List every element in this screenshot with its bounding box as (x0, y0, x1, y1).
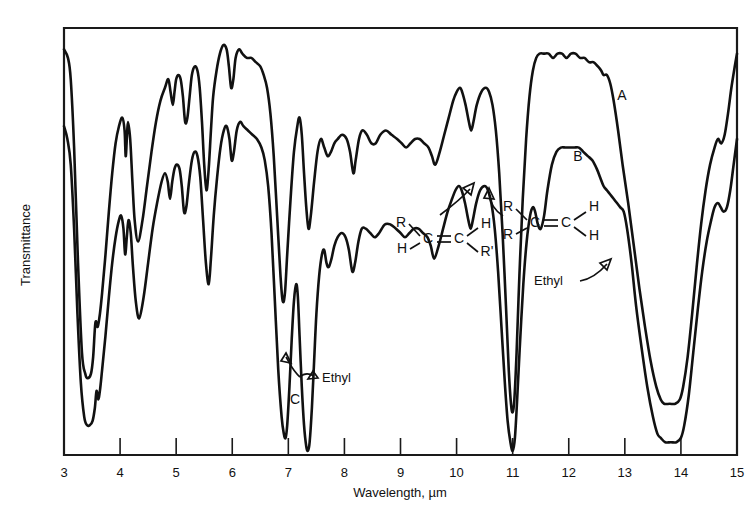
x-tick-label: 7 (285, 465, 292, 480)
struct-left-h2: H (481, 215, 491, 231)
spectrum-svg: 3456789101112131415 Wavelength, µm Trans… (0, 0, 751, 524)
struct-right-r2: R (503, 226, 513, 242)
x-tick-label: 12 (562, 465, 576, 480)
bond-left-r2 (467, 243, 478, 252)
bond-right-h2 (574, 227, 586, 236)
ethyl-lower-label: Ethyl (322, 370, 351, 385)
x-tick-label: 14 (674, 465, 688, 480)
x-tick-label: 3 (60, 465, 67, 480)
struct-right-r1: R (503, 198, 513, 214)
x-tick-label: 8 (341, 465, 348, 480)
ir-spectrum-figure: 3456789101112131415 Wavelength, µm Trans… (0, 0, 751, 524)
x-tick-label: 13 (618, 465, 632, 480)
struct-left-h1: H (397, 240, 407, 256)
curve-label-c: C (290, 391, 300, 407)
x-tick-label: 6 (229, 465, 236, 480)
bond-right-h1 (574, 212, 586, 220)
struct-left-c2: C (454, 230, 464, 246)
x-tick-label: 15 (730, 465, 744, 480)
x-tick-label: 5 (173, 465, 180, 480)
ethyl-upper-label: Ethyl (534, 273, 563, 288)
curve-c-trace (64, 122, 737, 451)
x-tick-label: 9 (397, 465, 404, 480)
struct-left-r1: R (396, 214, 406, 230)
struct-right-h1: H (589, 198, 599, 214)
curve-label-a: A (617, 87, 627, 103)
curve-label-b: B (573, 148, 582, 164)
x-tick-label: 10 (449, 465, 463, 480)
struct-right-c1: C (530, 214, 540, 230)
struct-right-h2: H (589, 227, 599, 243)
bond-left-h1 (410, 243, 420, 249)
x-axis-ticks (120, 438, 681, 455)
struct-left-r2: R' (481, 243, 494, 259)
bond-left-h2 (467, 228, 478, 236)
ethyl-lower-arrow-line (286, 357, 300, 377)
x-tick-label: 11 (506, 465, 520, 480)
x-axis-title: Wavelength, µm (353, 485, 447, 500)
annotation-ethyl-upper: Ethyl (534, 259, 611, 288)
x-axis-tick-labels: 3456789101112131415 (60, 465, 744, 480)
struct-left-c1: C (423, 230, 433, 246)
y-axis-title: Transmittance (18, 204, 33, 286)
struct-right-c2: C (561, 214, 571, 230)
struct-left-arrow-head (463, 183, 474, 195)
x-tick-label: 4 (116, 465, 123, 480)
